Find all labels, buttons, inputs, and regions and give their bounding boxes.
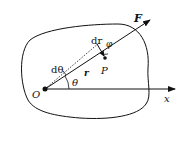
theta-arc	[65, 76, 69, 89]
dtheta-label: dθ	[51, 65, 63, 75]
origin-label: O	[32, 90, 40, 100]
diagram-graphics	[0, 0, 188, 143]
point-p	[103, 56, 107, 60]
force-line	[45, 20, 150, 89]
x-axis-label: x	[164, 94, 170, 104]
dr-label: dr	[91, 36, 102, 46]
dr-text: dr	[91, 35, 102, 46]
theta-label: θ	[72, 78, 78, 88]
diagram: F dr φ dθ r P O θ x	[0, 0, 188, 143]
force-label: F	[134, 13, 142, 24]
origin-point	[43, 87, 48, 92]
p-label: P	[101, 66, 108, 76]
r-label: r	[84, 69, 89, 78]
phi-label: φ	[106, 40, 112, 49]
